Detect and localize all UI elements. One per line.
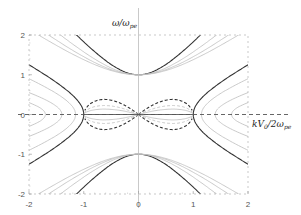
lens-inner-solid-segment [85, 115, 139, 120]
side-branch-light-1-left [0, 35, 76, 194]
y-tick-label: 2 [21, 31, 26, 40]
xlabel-mid: /2ω [267, 119, 285, 129]
x-tick-label: 0 [136, 200, 141, 209]
x-axis-label: kV0/2ωpe [252, 119, 292, 131]
curves-layer [0, 0, 301, 215]
x-tick-label: 2 [246, 200, 251, 209]
xlabel-sub1: pe [284, 123, 292, 131]
ticks-layer: -2-1012-2-1012 [18, 31, 251, 209]
svg-text:ω/ωpe: ω/ωpe [112, 18, 138, 30]
lens-inner-solid-segment [139, 109, 193, 114]
y-tick-label: -1 [18, 150, 26, 159]
x-tick-label: -1 [80, 200, 88, 209]
y-axis-label: ω/ωpe [112, 18, 138, 30]
y-tick-label: -2 [18, 190, 26, 199]
ylabel-sub: pe [130, 22, 138, 30]
y-tick-label: 0 [21, 111, 26, 120]
chart: -2-1012-2-1012 ω/ωpe kV0/2ωpe [0, 0, 301, 215]
x-tick-label: 1 [191, 200, 196, 209]
lens-inner-solid-segment [139, 115, 193, 120]
ylabel-main: ω/ω [112, 18, 130, 28]
svg-text:kV0/2ωpe: kV0/2ωpe [252, 119, 292, 131]
y-tick-label: 1 [21, 71, 26, 80]
x-tick-label: -2 [25, 200, 33, 209]
lens-inner-solid-segment [85, 109, 139, 114]
